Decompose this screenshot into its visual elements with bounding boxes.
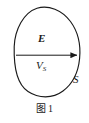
caption-prefix: 图 <box>36 103 46 114</box>
volume-base-letter: V <box>36 59 43 71</box>
volume-subscript: S <box>43 65 47 73</box>
closed-surface-curve <box>14 7 80 97</box>
caption-number: 1 <box>48 103 53 114</box>
figure-container: E VS S 图1 <box>0 0 89 123</box>
figure-caption: 图1 <box>0 103 89 115</box>
field-vector-label: E <box>38 33 45 44</box>
enclosed-volume-label: VS <box>36 60 46 73</box>
surface-label: S <box>73 74 79 85</box>
